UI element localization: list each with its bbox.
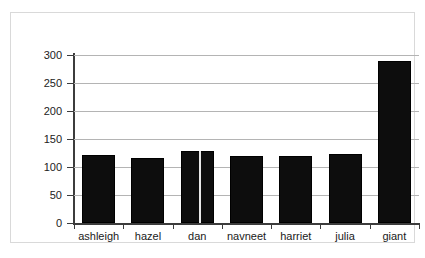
x-axis-label-navneet: navneet bbox=[227, 231, 266, 242]
bar-julia bbox=[329, 154, 362, 223]
x-tick-mark bbox=[320, 223, 321, 229]
y-tick-mark-300 bbox=[67, 55, 74, 56]
y-tick-mark-200 bbox=[67, 111, 74, 112]
gridline-200 bbox=[74, 111, 419, 112]
y-axis-tick-label: 150 bbox=[11, 134, 62, 145]
y-tick-mark-50 bbox=[67, 195, 74, 196]
x-tick-mark bbox=[222, 223, 223, 229]
x-axis-label-harriet: harriet bbox=[280, 231, 311, 242]
x-axis-label-ashleigh: ashleigh bbox=[78, 231, 119, 242]
x-tick-mark bbox=[74, 223, 75, 229]
bar-hazel bbox=[131, 158, 164, 223]
x-axis-label-hazel: hazel bbox=[135, 231, 161, 242]
page-frame: 050100150200250300 ashleighhazeldannavne… bbox=[10, 12, 415, 243]
y-axis-tick-label: 100 bbox=[11, 162, 62, 173]
gridline-150 bbox=[74, 139, 419, 140]
bar-navneet bbox=[230, 156, 263, 223]
bar-giant bbox=[378, 61, 411, 223]
bar-split-artifact bbox=[199, 151, 201, 223]
y-tick-mark-100 bbox=[67, 167, 74, 168]
x-tick-mark bbox=[123, 223, 124, 229]
y-tick-mark-150 bbox=[67, 139, 74, 140]
x-axis-label-dan: dan bbox=[188, 231, 206, 242]
y-axis-tick-label: 50 bbox=[11, 190, 62, 201]
gridline-0 bbox=[74, 223, 419, 224]
gridline-250 bbox=[74, 83, 419, 84]
gridline-300 bbox=[74, 55, 419, 56]
y-tick-mark-0 bbox=[67, 223, 74, 224]
y-tick-mark-250 bbox=[67, 83, 74, 84]
bar-ashleigh bbox=[82, 155, 115, 223]
bar-dan bbox=[181, 151, 214, 223]
x-tick-mark bbox=[370, 223, 371, 229]
y-axis-tick-label: 250 bbox=[11, 78, 62, 89]
chart-screenshot: 050100150200250300 ashleighhazeldannavne… bbox=[0, 0, 425, 258]
x-tick-mark bbox=[419, 223, 420, 229]
x-tick-mark bbox=[173, 223, 174, 229]
y-axis-tick-label: 200 bbox=[11, 106, 62, 117]
x-tick-mark bbox=[271, 223, 272, 229]
x-axis-label-julia: julia bbox=[335, 231, 355, 242]
y-axis-tick-label: 300 bbox=[11, 50, 62, 61]
y-axis-tick-label: 0 bbox=[11, 218, 62, 229]
plot-area bbox=[74, 55, 419, 223]
bar-harriet bbox=[279, 156, 312, 223]
x-axis-label-giant: giant bbox=[382, 231, 406, 242]
